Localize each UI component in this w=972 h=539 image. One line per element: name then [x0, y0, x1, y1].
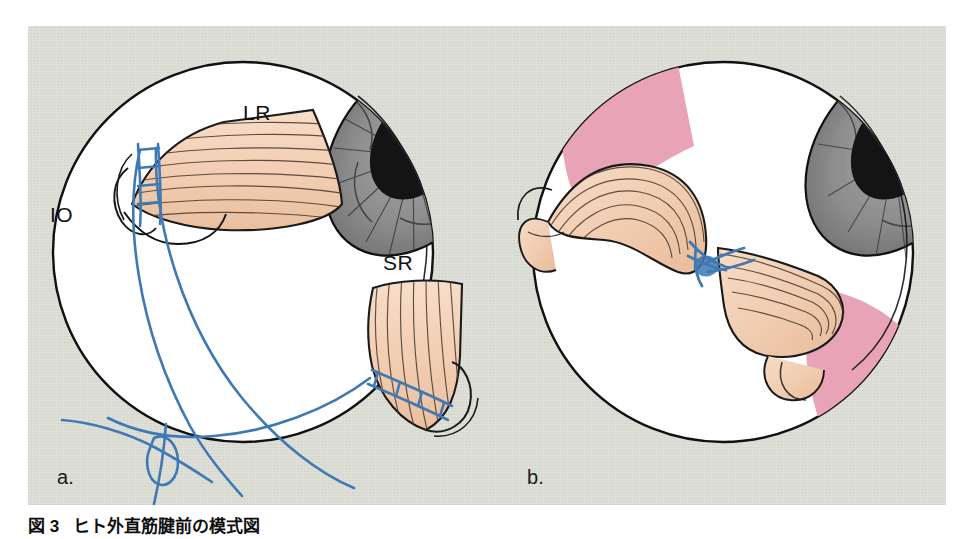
figure-caption-text: ヒト外直筋腱前の模式図 [73, 517, 260, 536]
figure-caption-number: 図 3 [28, 517, 59, 536]
label-superior-rectus: SR [383, 251, 413, 275]
panel-b-group [518, 26, 946, 442]
panel-a-label: a. [57, 466, 74, 489]
label-lateral-rectus: LR [243, 101, 271, 125]
label-inferior-oblique: IO [50, 203, 73, 227]
figure-caption: 図 3ヒト外直筋腱前の模式図 [28, 512, 928, 537]
panel-b-label: b. [527, 466, 544, 489]
superior-rectus-muscle-a [368, 275, 478, 436]
panel-a-group [53, 26, 538, 504]
eye-muscle-transposition-illustration [28, 26, 946, 505]
figure-page: LR SR IO a. b. 図 3ヒト外直筋腱前の模式図 [0, 0, 972, 539]
